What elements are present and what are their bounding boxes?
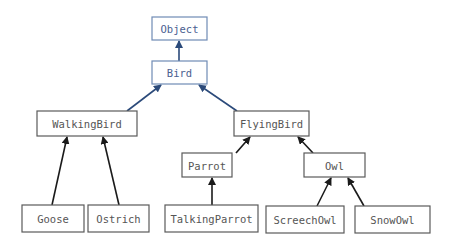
class-nodes: ObjectBirdWalkingBirdFlyingBirdParrotOwl…	[22, 17, 430, 233]
node-label: Object	[161, 23, 199, 35]
arrow-goose-to-walkingbird	[52, 137, 67, 205]
node-label: TalkingParrot	[170, 213, 252, 225]
arrow-flyingbird-to-bird	[199, 85, 237, 111]
node-label: Bird	[167, 67, 192, 79]
node-label: FlyingBird	[240, 118, 303, 130]
node-label: Owl	[325, 160, 344, 172]
node-parrot: Parrot	[182, 153, 232, 177]
arrow-ostrich-to-walkingbird	[103, 137, 119, 205]
node-owl: Owl	[304, 153, 365, 177]
node-label: Goose	[37, 213, 69, 225]
node-label: SnowOwl	[370, 214, 414, 226]
node-label: WalkingBird	[52, 118, 122, 130]
node-snowowl: SnowOwl	[355, 206, 430, 233]
arrow-snowowl-to-owl	[348, 178, 364, 206]
node-goose: Goose	[22, 205, 84, 232]
node-label: Ostrich	[96, 213, 140, 225]
arrow-screechowl-to-owl	[317, 178, 331, 206]
arrow-walkingbird-to-bird	[127, 85, 161, 111]
node-object: Object	[152, 17, 207, 40]
node-ostrich: Ostrich	[88, 205, 149, 232]
node-talkingparrot: TalkingParrot	[165, 205, 258, 232]
node-label: Parrot	[188, 160, 226, 172]
class-hierarchy-diagram: ObjectBirdWalkingBirdFlyingBirdParrotOwl…	[0, 0, 450, 247]
node-label: ScreechOwl	[273, 214, 336, 226]
arrow-owl-to-flyingbird	[298, 137, 313, 153]
node-screechowl: ScreechOwl	[266, 206, 344, 233]
arrow-parrot-to-flyingbird	[236, 137, 250, 153]
node-bird: Bird	[152, 61, 207, 84]
node-walkingbird: WalkingBird	[37, 111, 137, 136]
node-flyingbird: FlyingBird	[234, 111, 309, 136]
